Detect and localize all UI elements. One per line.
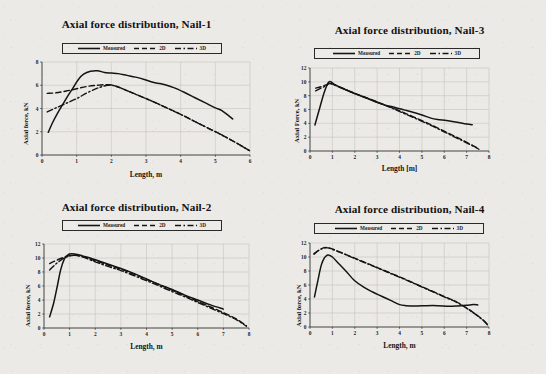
- legend-line-dashdot-icon: [175, 46, 197, 51]
- svg-text:8: 8: [488, 330, 491, 336]
- svg-text:5: 5: [171, 331, 174, 337]
- svg-text:6: 6: [38, 283, 41, 289]
- svg-text:2: 2: [353, 330, 356, 336]
- x-axis-label: Length, m: [42, 170, 250, 179]
- legend-item-measured: Measured: [335, 226, 382, 231]
- svg-text:6: 6: [249, 158, 252, 164]
- chart-title: Axial force distribution, Nail-4: [273, 203, 546, 215]
- chart-title: Axial force distribution, Nail-2: [0, 201, 273, 213]
- figure-page: Axial force distribution, Nail-1 Measure…: [0, 0, 546, 374]
- plot-area: 012345678024681012: [310, 243, 489, 327]
- svg-text:12: 12: [35, 241, 41, 247]
- legend-item-measured: Measured: [78, 46, 125, 51]
- chart-panel-nail-2: Axial force distribution, Nail-2 Measure…: [0, 187, 273, 374]
- series-measured: [315, 82, 472, 126]
- chart-legend: Measured 2D 3D: [62, 220, 222, 231]
- y-axis-label: Axial force, kN: [295, 284, 302, 327]
- svg-text:5: 5: [214, 158, 217, 164]
- series-measured: [314, 255, 477, 306]
- plot-area: 012345602468: [42, 62, 250, 155]
- legend-line-dashed-icon: [391, 226, 413, 231]
- svg-text:2: 2: [304, 134, 307, 140]
- svg-text:0: 0: [309, 330, 312, 336]
- legend-label-3d: 3D: [200, 223, 206, 228]
- legend-label-measured: Measured: [103, 223, 125, 228]
- legend-item-measured: Measured: [333, 51, 380, 56]
- svg-text:3: 3: [376, 154, 379, 160]
- svg-text:7: 7: [465, 154, 468, 160]
- x-axis-label: Length [m]: [310, 164, 489, 173]
- svg-text:8: 8: [304, 268, 307, 274]
- y-axis-label: Axial force, kN: [22, 102, 29, 145]
- plot-area: 012345678024681012: [44, 244, 249, 328]
- series-3d: [316, 83, 479, 149]
- series-2d: [316, 83, 479, 149]
- svg-text:4: 4: [179, 158, 182, 164]
- chart-panel-nail-3: Axial force distribution, Nail-3 Measure…: [273, 0, 546, 187]
- svg-text:2: 2: [94, 331, 97, 337]
- svg-text:2: 2: [36, 129, 39, 135]
- legend-item-2d: 2D: [389, 51, 420, 56]
- series-3d: [47, 85, 250, 151]
- svg-text:1: 1: [331, 154, 334, 160]
- legend-label-2d: 2D: [159, 46, 165, 51]
- series-3d: [50, 255, 247, 326]
- legend-item-2d: 2D: [391, 226, 422, 231]
- legend-line-solid-icon: [78, 223, 100, 228]
- svg-text:0: 0: [304, 324, 307, 330]
- legend-line-solid-icon: [78, 46, 100, 51]
- legend-line-solid-icon: [335, 226, 357, 231]
- svg-text:4: 4: [304, 296, 307, 302]
- svg-text:0: 0: [43, 331, 46, 337]
- legend-line-dashdot-icon: [432, 226, 454, 231]
- legend-label-measured: Measured: [358, 51, 380, 56]
- legend-item-2d: 2D: [134, 223, 165, 228]
- svg-text:4: 4: [36, 106, 39, 112]
- legend-line-dashdot-icon: [175, 223, 197, 228]
- legend-item-3d: 3D: [175, 46, 206, 51]
- x-axis-label: Length, m: [310, 341, 489, 350]
- svg-text:4: 4: [398, 330, 401, 336]
- legend-label-3d: 3D: [200, 46, 206, 51]
- chart-grid: Axial force distribution, Nail-1 Measure…: [0, 0, 546, 374]
- chart-title: Axial force distribution, Nail-3: [273, 24, 546, 36]
- svg-text:3: 3: [120, 331, 123, 337]
- svg-text:2: 2: [110, 158, 113, 164]
- svg-text:3: 3: [145, 158, 148, 164]
- y-axis-label: Axial force, kN: [24, 284, 31, 327]
- svg-text:7: 7: [465, 330, 468, 336]
- y-axis-label: Axial Force, kN: [293, 99, 300, 143]
- series-2d: [314, 247, 488, 325]
- legend-label-measured: Measured: [103, 46, 125, 51]
- svg-text:6: 6: [443, 330, 446, 336]
- svg-text:4: 4: [38, 297, 41, 303]
- svg-text:1: 1: [331, 330, 334, 336]
- svg-text:6: 6: [304, 282, 307, 288]
- legend-item-3d: 3D: [432, 226, 463, 231]
- svg-text:2: 2: [304, 310, 307, 316]
- svg-text:5: 5: [421, 154, 424, 160]
- svg-text:6: 6: [443, 154, 446, 160]
- svg-text:0: 0: [36, 152, 39, 158]
- legend-label-measured: Measured: [360, 226, 382, 231]
- svg-text:0: 0: [309, 154, 312, 160]
- svg-text:8: 8: [38, 269, 41, 275]
- svg-text:10: 10: [301, 79, 307, 85]
- svg-text:8: 8: [488, 154, 491, 160]
- legend-item-3d: 3D: [430, 51, 461, 56]
- svg-text:0: 0: [38, 325, 41, 331]
- legend-line-dashdot-icon: [430, 51, 452, 56]
- legend-label-3d: 3D: [455, 51, 461, 56]
- svg-text:1: 1: [68, 331, 71, 337]
- legend-label-2d: 2D: [159, 223, 165, 228]
- svg-text:4: 4: [304, 120, 307, 126]
- svg-text:12: 12: [301, 65, 307, 71]
- svg-text:0: 0: [41, 158, 44, 164]
- series-3d: [314, 248, 488, 326]
- svg-text:10: 10: [301, 254, 307, 260]
- svg-text:6: 6: [196, 331, 199, 337]
- chart-legend: Measured 2D 3D: [62, 43, 222, 54]
- chart-panel-nail-1: Axial force distribution, Nail-1 Measure…: [0, 0, 273, 187]
- plot-area: 012345678024681012: [310, 68, 489, 151]
- legend-label-2d: 2D: [416, 226, 422, 231]
